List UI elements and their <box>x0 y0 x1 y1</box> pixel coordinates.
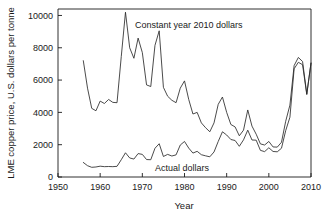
y-tick-label: 0 <box>48 172 53 182</box>
y-tick-label: 4000 <box>33 108 53 118</box>
x-tick-label: 1970 <box>132 182 152 192</box>
x-tick-label: 2000 <box>259 182 279 192</box>
line-chart: 0200040006000800010000 19501960197019801… <box>0 0 331 217</box>
y-tick-label: 8000 <box>33 43 53 53</box>
x-tick-label: 1980 <box>174 182 194 192</box>
series-annotation-actual: Actual dollars <box>155 163 210 173</box>
y-tick-label: 2000 <box>33 140 53 150</box>
y-axis-title: LME copper price, U.S. dollars per tonne <box>5 7 16 179</box>
x-tick-label: 1960 <box>90 182 110 192</box>
x-tick-label: 1950 <box>48 182 68 192</box>
x-axis-title: Year <box>174 200 193 211</box>
series-annotation-constant: Constant year 2010 dollars <box>135 20 243 30</box>
x-tick-label: 2010 <box>301 182 321 192</box>
y-tick-label: 10000 <box>28 11 53 21</box>
chart-figure: 0200040006000800010000 19501960197019801… <box>0 0 331 217</box>
x-tick-label: 1990 <box>217 182 237 192</box>
y-tick-label: 6000 <box>33 75 53 85</box>
